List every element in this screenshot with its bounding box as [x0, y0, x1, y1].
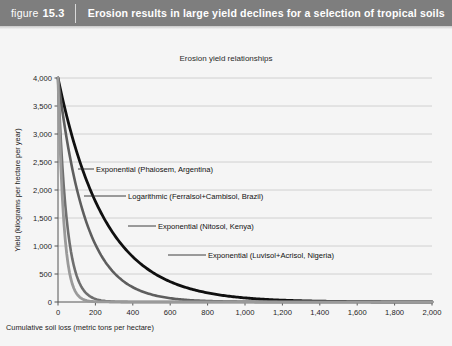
- series-annotation-label: Exponential (Luvisol+Acrisol, Nigeria): [208, 251, 334, 260]
- y-tick-label: 3,000: [33, 130, 52, 139]
- x-tick-label: 1,800: [385, 308, 404, 317]
- x-tick-label: 800: [201, 308, 214, 317]
- y-tick-label: 500: [39, 270, 52, 279]
- x-tick-label: 1,400: [310, 308, 329, 317]
- y-tick-label: 1,500: [33, 214, 52, 223]
- y-tick-label: 2,500: [33, 158, 52, 167]
- y-tick-label: 1,000: [33, 242, 52, 251]
- y-tick-label: 0: [48, 298, 52, 307]
- y-tick-label: 4,000: [33, 74, 52, 83]
- y-tick-label: 2,000: [33, 186, 52, 195]
- series-annotation-label: Exponential (Phaiosem, Argentina): [96, 165, 213, 174]
- x-tick-label: 1,200: [273, 308, 292, 317]
- x-tick-label: 400: [126, 308, 139, 317]
- y-tick-label: 3,500: [33, 102, 52, 111]
- x-tick-label: 2,000: [422, 308, 441, 317]
- x-tick-label: 200: [89, 308, 102, 317]
- x-tick-label: 1,000: [235, 308, 254, 317]
- x-tick-label: 0: [56, 308, 60, 317]
- y-axis-title: Yield (kilograms per hectare per year): [13, 128, 22, 251]
- x-tick-label: 600: [164, 308, 177, 317]
- x-tick-label: 1,600: [348, 308, 367, 317]
- x-axis-title: Cumulative soil loss (metric tons per he…: [6, 323, 154, 332]
- figure-page: figure 15.3 Erosion results in large yie…: [0, 0, 452, 346]
- chart-svg: 05001,0001,5002,0002,5003,0003,5004,0000…: [0, 0, 452, 346]
- series-annotation-label: Exponential (Nitosol, Kenya): [158, 222, 254, 231]
- series-annotation-label: Logarithmic (Ferralsol+Cambisol, Brazil): [128, 192, 264, 201]
- chart-plot-area: 05001,0001,5002,0002,5003,0003,5004,0000…: [0, 0, 452, 346]
